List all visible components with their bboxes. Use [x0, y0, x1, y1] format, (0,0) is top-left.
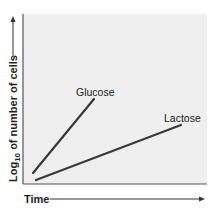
plot-area: [23, 14, 207, 184]
y-axis-title-group: Log10 of number of cells: [7, 55, 22, 182]
glucose-label: Glucose: [76, 86, 115, 98]
y-axis-arrow-icon: [11, 16, 16, 22]
y-axis-title-suffix: of number of cells: [7, 55, 19, 153]
lactose-label: Lactose: [164, 112, 201, 124]
y-axis-title-prefix: Log: [7, 162, 19, 182]
x-axis-arrow-icon: [199, 197, 205, 202]
growth-chart: Glucose Lactose Time Log10 of number of …: [0, 0, 219, 215]
x-axis-title: Time: [24, 193, 49, 205]
y-axis-title: Log10 of number of cells: [7, 55, 22, 182]
